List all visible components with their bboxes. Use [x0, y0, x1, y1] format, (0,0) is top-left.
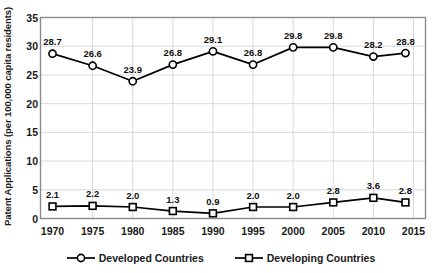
data-point-label: 2.8 — [399, 185, 412, 196]
data-point-label: 29.8 — [284, 30, 303, 41]
data-point-label: 2.8 — [327, 185, 340, 196]
data-point-square-marker — [402, 199, 409, 206]
circle-marker-icon — [66, 252, 96, 264]
data-point-square-marker — [330, 199, 337, 206]
data-point-label: 29.1 — [204, 34, 223, 45]
square-marker-icon — [234, 252, 264, 264]
legend-entry-2[interactable]: Developing Countries — [234, 252, 376, 264]
data-point-circle-marker — [249, 61, 256, 68]
data-point-label: 2.0 — [287, 190, 300, 201]
data-point-label: 2.1 — [46, 189, 60, 200]
data-point-label: 28.8 — [396, 36, 415, 47]
data-point-label: 1.3 — [166, 194, 179, 205]
data-point-label: 26.8 — [164, 47, 183, 58]
data-point-square-marker — [169, 208, 176, 215]
data-point-circle-marker — [209, 48, 216, 55]
legend-label: Developing Countries — [267, 252, 376, 264]
data-point-square-marker — [210, 210, 217, 217]
data-point-circle-marker — [89, 62, 96, 69]
data-point-label: 28.2 — [364, 39, 383, 50]
data-point-square-marker — [290, 204, 297, 211]
data-point-square-marker — [370, 194, 377, 201]
data-point-label: 26.6 — [83, 48, 102, 59]
data-point-label: 0.9 — [206, 196, 219, 207]
data-point-label: 2.0 — [126, 190, 139, 201]
data-point-circle-marker — [169, 61, 176, 68]
legend-entry-1[interactable]: Developed Countries — [66, 252, 204, 264]
data-point-label: 3.6 — [367, 180, 380, 191]
data-point-circle-marker — [129, 78, 136, 85]
data-point-label: 26.8 — [244, 47, 263, 58]
data-point-square-marker — [49, 203, 56, 210]
data-point-label: 2.2 — [86, 188, 99, 199]
legend-label: Developed Countries — [99, 252, 204, 264]
legend-circle-marker — [77, 254, 84, 261]
data-point-circle-marker — [402, 50, 409, 57]
data-point-circle-marker — [330, 44, 337, 51]
data-point-circle-marker — [290, 44, 297, 51]
data-point-label: 23.9 — [123, 64, 142, 75]
chart-legend: Developed CountriesDeveloping Countries — [0, 252, 441, 264]
plot-area: 28.726.623.926.829.126.829.829.828.228.8… — [0, 0, 441, 273]
data-point-circle-marker — [370, 53, 377, 60]
data-point-square-marker — [250, 204, 257, 211]
legend-square-marker — [245, 255, 252, 262]
data-point-label: 29.8 — [324, 30, 343, 41]
patent-applications-line-chart: Patent Applications (per 100,000 capita … — [0, 0, 441, 273]
data-point-label: 28.7 — [43, 36, 62, 47]
data-point-circle-marker — [49, 50, 56, 57]
data-point-square-marker — [129, 204, 136, 211]
data-point-label: 2.0 — [246, 190, 259, 201]
data-point-square-marker — [89, 202, 96, 209]
